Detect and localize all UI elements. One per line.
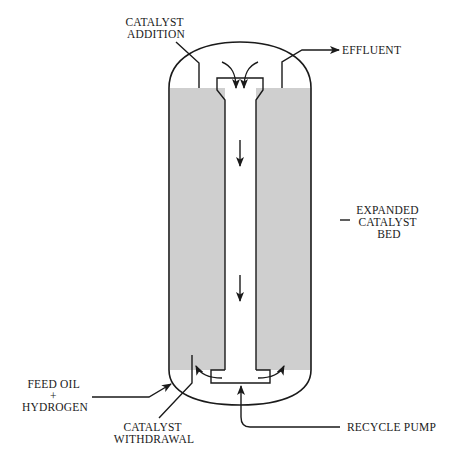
- catalyst-addition-line: [176, 42, 199, 88]
- recycle-cup: [211, 370, 270, 383]
- recycle-pump-label: RECYCLE PUMP: [347, 421, 436, 433]
- reactor-diagram: CATALYST ADDITION EFFLUENT EXPANDED CATA…: [0, 0, 449, 464]
- feed-inlet-line: [92, 384, 171, 397]
- catalyst-withdrawal-label: CATALYST WITHDRAWAL: [114, 421, 194, 445]
- expanded-catalyst-bed: [170, 88, 311, 370]
- funnel-inflow-arrow-left: [222, 62, 236, 88]
- recycle-pump-line: [241, 386, 340, 427]
- funnel-inflow-arrow-right: [244, 62, 258, 88]
- feed-oil-hydrogen-label: FEED OIL + HYDROGEN: [22, 378, 89, 413]
- expanded-bed-label: EXPANDED CATALYST BED: [356, 204, 422, 240]
- effluent-label: EFFLUENT: [342, 44, 401, 56]
- catalyst-addition-label: CATALYST ADDITION: [125, 16, 186, 40]
